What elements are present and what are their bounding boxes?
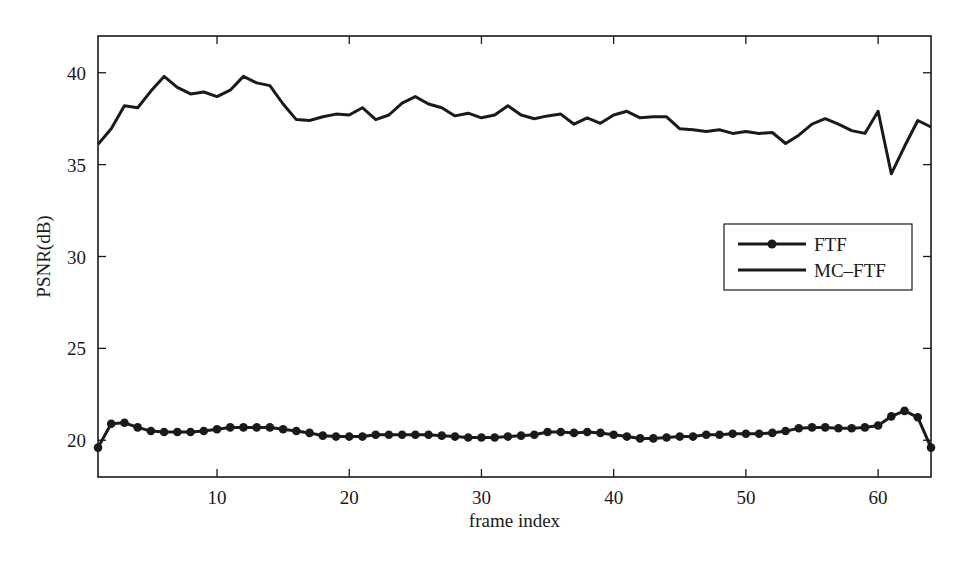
x-tick-label: 20 — [340, 487, 359, 508]
y-tick-label: 35 — [67, 155, 86, 176]
data-point-marker — [715, 430, 724, 439]
data-point-marker — [702, 430, 711, 439]
data-point-marker — [913, 413, 922, 422]
data-point-marker — [252, 423, 261, 432]
data-point-marker — [266, 423, 275, 432]
data-point-marker — [755, 430, 764, 439]
data-point-marker — [781, 427, 790, 436]
data-point-marker — [239, 423, 248, 432]
x-tick-label: 30 — [472, 487, 491, 508]
data-point-marker — [530, 430, 539, 439]
data-point-marker — [107, 419, 116, 428]
legend-label: MC–FTF — [814, 260, 886, 281]
data-point-marker — [411, 430, 420, 439]
data-point-marker — [768, 429, 777, 438]
x-tick-label: 40 — [604, 487, 623, 508]
data-point-marker — [345, 432, 354, 441]
data-point-marker — [305, 429, 314, 438]
data-point-marker — [623, 432, 632, 441]
data-point-marker — [213, 425, 222, 434]
data-point-marker — [332, 432, 341, 441]
data-point-marker — [887, 412, 896, 421]
psnr-line-chart: 1020304050602025303540 frame index PSNR(… — [0, 0, 973, 562]
data-point-marker — [874, 421, 883, 430]
data-point-marker — [728, 430, 737, 439]
data-point-marker — [504, 432, 513, 441]
data-point-marker — [173, 428, 182, 437]
data-point-marker — [517, 431, 526, 440]
data-point-marker — [609, 430, 618, 439]
series-line-ftf — [98, 411, 931, 448]
data-point-marker — [861, 423, 870, 432]
data-point-marker — [147, 427, 156, 436]
data-point-marker — [292, 427, 301, 436]
data-point-marker — [556, 428, 565, 437]
circle-marker-icon — [768, 240, 777, 249]
x-tick-label: 60 — [869, 487, 888, 508]
data-point-marker — [120, 418, 129, 427]
data-point-marker — [662, 433, 671, 442]
x-tick-label: 50 — [736, 487, 755, 508]
data-point-marker — [794, 424, 803, 433]
data-point-marker — [133, 423, 142, 432]
data-point-marker — [834, 424, 843, 433]
data-point-marker — [808, 423, 817, 432]
data-point-marker — [490, 433, 499, 442]
legend-label: FTF — [814, 234, 847, 255]
data-point-marker — [900, 407, 909, 416]
x-tick-label: 10 — [208, 487, 227, 508]
data-point-marker — [451, 432, 460, 441]
y-axis-label: PSNR(dB) — [33, 215, 55, 297]
data-point-marker — [847, 424, 856, 433]
data-point-marker — [596, 429, 605, 438]
y-tick-label: 25 — [67, 338, 86, 359]
y-tick-label: 30 — [67, 247, 86, 268]
data-point-marker — [398, 430, 407, 439]
data-point-marker — [675, 432, 684, 441]
data-point-marker — [279, 425, 288, 434]
data-point-marker — [226, 423, 235, 432]
data-point-marker — [371, 430, 380, 439]
data-point-marker — [689, 432, 698, 441]
x-axis-label: frame index — [469, 510, 561, 531]
data-point-marker — [543, 428, 552, 437]
data-point-marker — [636, 434, 645, 443]
data-point-marker — [199, 427, 208, 436]
data-point-marker — [424, 430, 433, 439]
data-point-marker — [570, 429, 579, 438]
legend: FTF MC–FTF — [724, 224, 912, 290]
data-point-marker — [649, 434, 658, 443]
data-point-marker — [464, 433, 473, 442]
data-point-marker — [742, 430, 751, 439]
data-point-marker — [821, 423, 830, 432]
data-point-marker — [160, 428, 169, 437]
data-point-marker — [385, 430, 394, 439]
y-tick-label: 40 — [67, 63, 86, 84]
series-line-mc-ftf — [98, 76, 931, 173]
data-point-marker — [583, 428, 592, 437]
y-tick-label: 20 — [67, 430, 86, 451]
data-point-marker — [437, 431, 446, 440]
data-point-marker — [318, 431, 327, 440]
data-point-marker — [358, 432, 367, 441]
data-point-marker — [477, 433, 486, 442]
data-point-marker — [186, 428, 195, 437]
